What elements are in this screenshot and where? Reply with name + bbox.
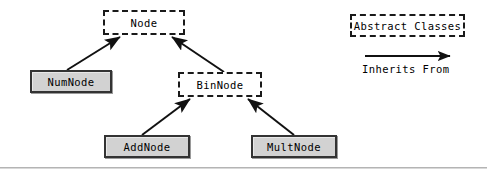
edge-binnode-to-node	[172, 37, 224, 72]
legend-abstract-classes-box: Abstract Classes	[350, 14, 465, 37]
legend-abstract-classes-label: Abstract Classes	[354, 20, 462, 32]
class-node-label: NumNode	[47, 76, 94, 88]
class-node-label: AddNode	[123, 141, 170, 153]
edge-multnode-to-binnode	[248, 99, 294, 135]
class-diagram: Node NumNode BinNode AddNode MultNode Ab…	[0, 0, 487, 173]
legend-inherits-from-label: Inherits From	[362, 63, 449, 75]
class-node-addnode[interactable]: AddNode	[104, 135, 190, 158]
class-node-node[interactable]: Node	[103, 10, 185, 35]
class-node-label: MultNode	[267, 141, 321, 153]
edge-numnode-to-node	[67, 37, 120, 70]
class-node-binnode[interactable]: BinNode	[178, 72, 262, 97]
class-node-numnode[interactable]: NumNode	[30, 70, 112, 93]
class-node-label: BinNode	[196, 79, 243, 91]
edge-addnode-to-binnode	[142, 99, 190, 135]
footer-divider	[0, 167, 487, 169]
class-node-label: Node	[131, 17, 158, 29]
class-node-multnode[interactable]: MultNode	[251, 135, 337, 158]
